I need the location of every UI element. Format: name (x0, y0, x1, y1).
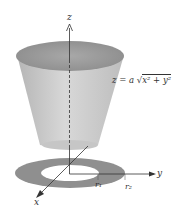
annulus-region (15, 158, 125, 188)
y-axis-label: y (157, 169, 162, 178)
equation-coef: a (129, 75, 134, 85)
equation-radicand: x² + y² (142, 74, 171, 85)
equation-lhs: z (112, 75, 116, 85)
z-axis-label: z (67, 13, 72, 22)
cone-surface (16, 41, 124, 150)
inner-radius-label: r₁ (95, 181, 102, 189)
equation-equals: = (119, 75, 126, 85)
diagram-svg (0, 0, 179, 216)
outer-radius-label: r₂ (125, 183, 132, 191)
x-axis-label: x (34, 198, 39, 207)
cone-over-annulus-diagram: z y x r₁ r₂ z = a √x² + y² (0, 0, 179, 216)
cone-equation: z = a √x² + y² (112, 75, 171, 85)
